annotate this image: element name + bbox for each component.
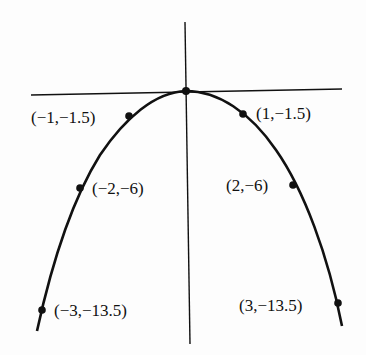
parabola-diagram: (−1,−1.5) (1,−1.5) (−2,−6) (2,−6) (−3,−1…: [0, 0, 366, 355]
point-neg1: [125, 112, 133, 120]
diagram-canvas: (−1,−1.5) (1,−1.5) (−2,−6) (2,−6) (−3,−1…: [0, 0, 366, 355]
label-neg2: (−2,−6): [92, 179, 144, 198]
point-pos2: [289, 181, 297, 189]
label-pos1: (1,−1.5): [256, 104, 311, 123]
point-pos3: [334, 299, 342, 307]
label-pos2: (2,−6): [226, 176, 268, 195]
label-neg3: (−3,−13.5): [54, 301, 127, 320]
point-pos1: [239, 110, 247, 118]
y-axis: [185, 22, 190, 344]
point-neg2: [76, 184, 84, 192]
label-pos3: (3,−13.5): [239, 296, 302, 315]
label-neg1: (−1,−1.5): [31, 108, 96, 127]
vertex-point: [182, 87, 190, 95]
point-neg3: [38, 306, 46, 314]
